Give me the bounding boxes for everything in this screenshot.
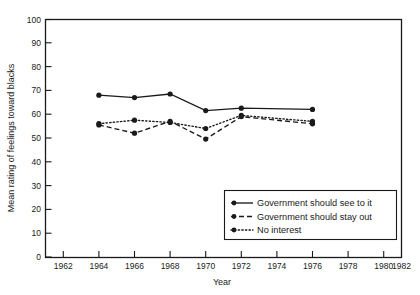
legend-marker [232, 228, 237, 233]
legend-marker [232, 214, 237, 219]
y-axis-tick-labels: 0 10 20 30 40 50 60 70 80 90 100 [27, 15, 41, 262]
data-point [132, 118, 137, 123]
data-point [132, 95, 137, 100]
data-point [96, 93, 101, 98]
x-tick-label: 1976 [303, 261, 322, 271]
x-tick-label: 1964 [89, 261, 108, 271]
y-axis-ticks [46, 20, 52, 258]
y-tick-label: 60 [32, 109, 42, 119]
data-point [310, 107, 315, 112]
x-tick-label: 1980 [374, 261, 393, 271]
legend-label: No interest [257, 225, 302, 235]
y-axis-title: Mean rating of feelings toward blacks [6, 63, 16, 212]
data-point [96, 122, 101, 127]
x-tick-label: 1962 [54, 261, 73, 271]
x-tick-label: 1968 [161, 261, 180, 271]
y-tick-label: 10 [32, 228, 42, 238]
y-tick-label: 30 [32, 181, 42, 191]
x-tick-label: 1970 [196, 261, 215, 271]
series-no-interest [96, 113, 315, 131]
x-tick-label: 1966 [125, 261, 144, 271]
legend-label: Government should see to it [257, 198, 372, 208]
x-tick-label: 1982 [392, 261, 411, 271]
series-government-should-see-to-it [96, 91, 315, 113]
data-point [203, 108, 208, 113]
y-tick-label: 80 [32, 62, 42, 72]
x-axis-ticks [63, 251, 383, 257]
data-point [239, 106, 244, 111]
x-tick-label: 1978 [339, 261, 358, 271]
x-tick-label: 1972 [232, 261, 251, 271]
x-tick-label: 1974 [267, 261, 286, 271]
data-point [132, 131, 137, 136]
x-axis-tick-labels: 1962 1964 1966 1968 1970 1972 1974 1976 … [54, 261, 411, 271]
y-tick-label: 20 [32, 204, 42, 214]
y-tick-label: 90 [32, 38, 42, 48]
y-tick-label: 100 [27, 15, 41, 25]
data-point [203, 137, 208, 142]
data-point [168, 91, 173, 96]
data-point [168, 119, 173, 124]
y-tick-label: 50 [32, 133, 42, 143]
x-axis-title: Year [213, 277, 231, 287]
chart-figure: 0 10 20 30 40 50 60 70 80 90 100 [0, 0, 420, 295]
y-tick-label: 0 [36, 252, 41, 262]
legend-label: Government should stay out [257, 212, 372, 222]
legend-marker [232, 201, 237, 206]
data-point [310, 121, 315, 126]
y-tick-label: 70 [32, 85, 42, 95]
y-tick-label: 40 [32, 157, 42, 167]
chart-legend: Government should see to it Government s… [225, 191, 397, 240]
data-point [203, 126, 208, 131]
line-chart: 0 10 20 30 40 50 60 70 80 90 100 [0, 0, 420, 295]
data-point [239, 114, 244, 119]
